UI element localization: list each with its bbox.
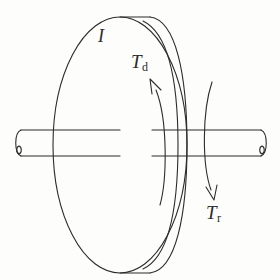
label-resisting-torque: Tr: [206, 203, 221, 224]
flywheel-torque-diagram: I Td Tr: [0, 0, 280, 280]
disc-rim-inner-contour: [143, 21, 178, 269]
label-inertia-symbol: I: [98, 26, 104, 46]
resisting-torque-arrow-head: [206, 185, 217, 200]
label-driving-torque: Td: [131, 52, 148, 73]
disc-back-face: [150, 17, 187, 273]
label-moment-of-inertia: I: [98, 27, 105, 47]
label-driving-torque-subscript: d: [142, 60, 148, 74]
label-resisting-torque-subscript: r: [217, 211, 221, 225]
diagram-canvas: [0, 0, 280, 280]
shaft-left-end-cap-inner: [17, 146, 22, 154]
driving-torque-arrow-shaft: [156, 90, 165, 205]
disc-front-face: [53, 17, 187, 273]
resisting-torque-arrow-shaft: [204, 82, 212, 190]
shaft-right-end-cap-inner: [260, 146, 265, 154]
driving-torque-arrow-head: [150, 79, 161, 94]
label-driving-torque-symbol: T: [131, 51, 142, 72]
label-resisting-torque-symbol: T: [206, 202, 217, 223]
